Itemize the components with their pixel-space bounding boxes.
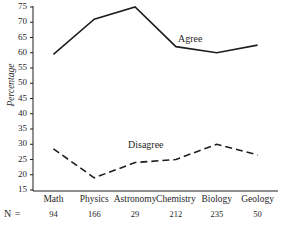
y-axis-tick-label: 35 — [11, 124, 27, 133]
series-annotation-agree: Agree — [178, 33, 202, 44]
y-axis-tick-label: 15 — [11, 185, 27, 194]
x-axis-tick-label: Geology — [228, 194, 282, 205]
sample-size-label: N = — [4, 208, 21, 219]
sample-size-value: 50 — [233, 209, 282, 219]
y-axis-tick-label: 55 — [11, 63, 27, 72]
y-axis-tick-label: 25 — [11, 155, 27, 164]
y-axis-tick-label: 30 — [11, 139, 27, 148]
y-axis-tick-label: 60 — [11, 48, 27, 57]
y-axis-tick-label: 65 — [11, 33, 27, 42]
y-axis-tick-label: 45 — [11, 94, 27, 103]
y-axis-tick-label: 70 — [11, 17, 27, 26]
series-annotation-disagree: Disagree — [128, 139, 164, 150]
y-axis-tick-label: 40 — [11, 109, 27, 118]
y-axis-tick-label: 20 — [11, 170, 27, 179]
series-line-agree — [53, 7, 257, 54]
y-axis-tick-label: 75 — [11, 2, 27, 11]
chart-container: Percentage 75706560555045403530252015 Ma… — [0, 0, 282, 230]
y-axis-tick-label: 50 — [11, 78, 27, 87]
